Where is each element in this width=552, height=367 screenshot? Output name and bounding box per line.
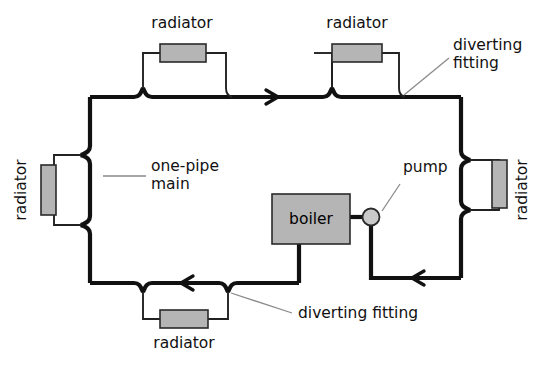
label-one-pipe-main-line1: one-pipe	[151, 157, 219, 175]
boiler-label: boiler	[289, 210, 333, 228]
branch-radiator-left-bottom	[54, 215, 81, 225]
radiator-top-left[interactable]	[160, 44, 206, 62]
label-radiator-top-right: radiator	[326, 14, 388, 32]
main-right-run	[461, 97, 470, 278]
label-radiator-right: radiator	[513, 159, 531, 221]
hydronic-loop-diagram: boiler radiator radiator radiator radiat…	[0, 0, 552, 367]
radiator-left[interactable]	[41, 165, 56, 215]
label-diverting-fitting-bottom: diverting fitting	[298, 304, 418, 322]
label-one-pipe-main-line2: main	[151, 175, 190, 193]
flow-arrows	[181, 90, 424, 290]
label-pump: pump	[403, 158, 448, 176]
label-radiator-left: radiator	[12, 159, 30, 221]
label-radiator-bottom: radiator	[153, 334, 215, 352]
branch-radiator-top-left-return	[206, 53, 232, 97]
label-radiator-top-left: radiator	[151, 14, 213, 32]
one-pipe-main-loop	[81, 88, 470, 292]
label-diverting-fitting-top-line2: fitting	[453, 54, 499, 72]
branch-radiator-bottom-left	[143, 292, 160, 319]
main-return-run	[371, 224, 461, 278]
main-left-run	[81, 97, 90, 283]
pump[interactable]	[363, 209, 380, 226]
radiator-bottom[interactable]	[160, 310, 208, 328]
label-diverting-fitting-top-line1: diverting	[453, 36, 522, 54]
radiator-top-right[interactable]	[332, 44, 382, 62]
leader-diverting-fitting-bottom	[231, 293, 292, 313]
branch-radiator-left-top	[54, 155, 81, 165]
leader-diverting-fitting-top	[404, 58, 449, 95]
radiators	[41, 44, 507, 328]
branch-radiator-top-left	[143, 53, 160, 88]
diagram-canvas: boiler radiator radiator radiator radiat…	[0, 0, 552, 367]
radiator-right[interactable]	[492, 160, 507, 208]
branch-radiator-top-right-return	[382, 53, 405, 97]
branch-radiator-bottom-right	[208, 292, 228, 319]
leader-pump	[382, 184, 400, 211]
